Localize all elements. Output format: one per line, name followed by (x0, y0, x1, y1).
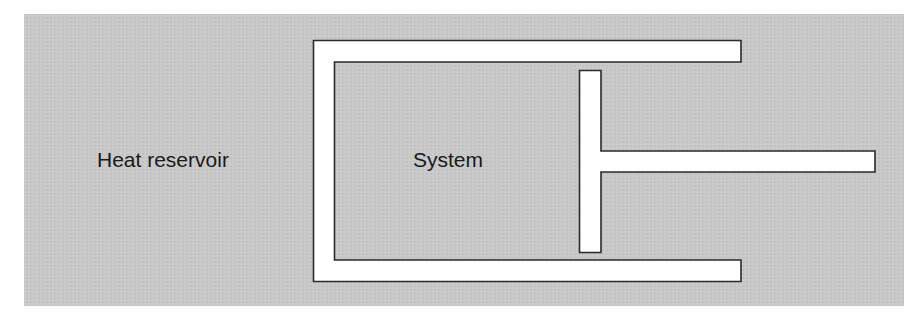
system-label: System (413, 148, 483, 172)
piston (580, 71, 876, 253)
diagram-canvas: Heat reservoir System (0, 0, 922, 320)
heat-reservoir-label: Heat reservoir (97, 148, 229, 172)
